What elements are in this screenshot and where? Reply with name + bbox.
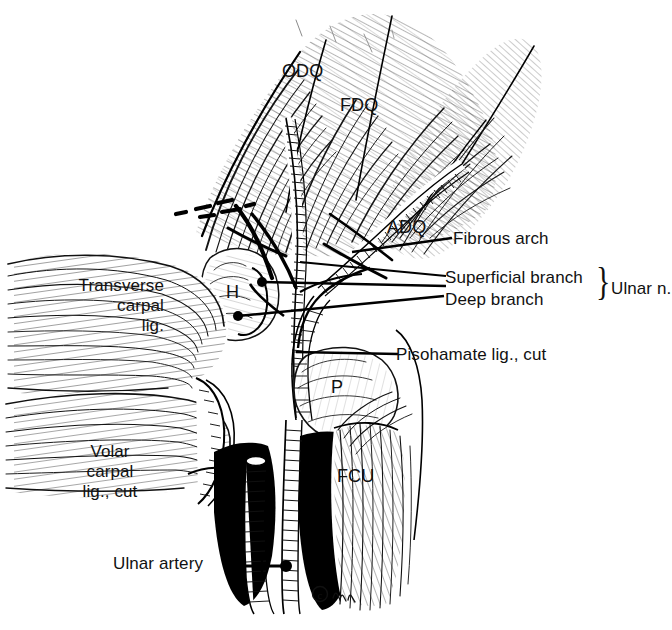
label-adq: ADQ (387, 218, 426, 237)
illustration-canvas: c (0, 0, 672, 630)
label-fibrous-arch: Fibrous arch (453, 229, 549, 248)
label-transverse-carpal-lig-line2: carpal (20, 296, 164, 315)
label-superficial-branch: Superficial branch (445, 268, 583, 287)
label-hamate: H (226, 283, 239, 302)
label-fcu: FCU (337, 467, 374, 486)
label-volar-carpal-lig-line2: carpal (50, 462, 170, 481)
label-transverse-carpal-lig-line3: lig. (20, 316, 164, 335)
label-pisiform: P (331, 378, 343, 397)
label-ulnar-artery: Ulnar artery (113, 554, 203, 573)
ulnar-nerve-brace: } (596, 262, 610, 302)
label-deep-branch: Deep branch (445, 290, 543, 309)
label-ulnar-nerve: Ulnar n. (611, 279, 671, 298)
label-fdq: FDQ (340, 96, 378, 115)
label-volar-carpal-lig-line3: lig., cut (50, 482, 170, 501)
label-volar-carpal-lig-line1: Volar (50, 442, 170, 461)
svg-text:c: c (318, 589, 323, 601)
label-pisohamate-lig: Pisohamate lig., cut (396, 345, 546, 364)
anatomical-figure: c ODQ FDQ ADQ H P FCU Fibrous arch Super… (0, 0, 672, 630)
label-transverse-carpal-lig-line1: Transverse (20, 276, 164, 295)
label-odq: ODQ (282, 62, 323, 81)
